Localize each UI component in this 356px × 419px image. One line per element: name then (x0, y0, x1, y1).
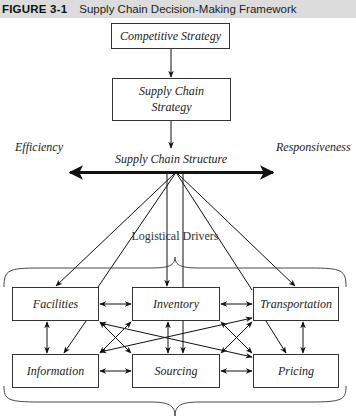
pricing-label: Pricing (277, 364, 314, 378)
top-brace (4, 257, 346, 287)
responsiveness-label: Responsiveness (275, 140, 351, 154)
driver-pricing: Pricing (254, 355, 339, 388)
inventory-label: Inventory (152, 297, 200, 311)
driver-transportation: Transportation (254, 288, 339, 321)
supply-chain-strategy-node: Supply Chain Strategy (113, 79, 231, 121)
facilities-label: Facilities (32, 297, 79, 311)
logistical-drivers-label: Logistical Drivers (132, 229, 219, 243)
driver-information: Information (13, 355, 99, 388)
structure-to-drivers-arrows (56, 174, 295, 353)
sc-strategy-label-line2: Strategy (152, 100, 193, 114)
sc-strategy-label-line1: Supply Chain (139, 84, 204, 98)
competitive-strategy-node: Competitive Strategy (112, 24, 230, 49)
driver-inventory: Inventory (133, 288, 220, 321)
driver-facilities: Facilities (13, 288, 99, 321)
driver-sourcing: Sourcing (133, 355, 220, 388)
supply-chain-structure-label: Supply Chain Structure (115, 152, 228, 166)
sourcing-label: Sourcing (155, 364, 198, 378)
competitive-strategy-label: Competitive Strategy (120, 29, 222, 43)
transportation-label: Transportation (260, 297, 332, 311)
information-label: Information (26, 364, 84, 378)
framework-diagram: Competitive Strategy Supply Chain Strate… (0, 0, 356, 419)
efficiency-label: Efficiency (14, 140, 64, 154)
bottom-brace (4, 386, 346, 416)
